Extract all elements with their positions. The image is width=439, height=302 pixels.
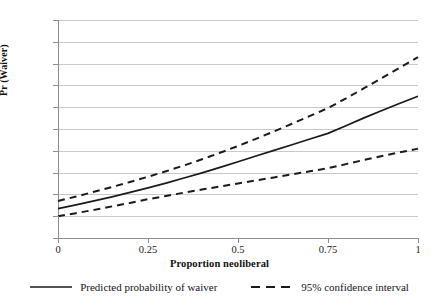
legend-item-confidence: 95% confidence interval	[251, 281, 409, 293]
y-tick-mark	[53, 20, 59, 21]
x-tick-mark	[238, 238, 239, 243]
chart-figure: Pr (Waiver) Proportion neoliberal Predic…	[0, 0, 439, 302]
x-tick-label: 1	[415, 245, 420, 256]
legend-line-solid-icon	[30, 282, 72, 292]
plot-area	[58, 20, 418, 238]
x-tick-mark	[58, 238, 59, 243]
y-tick-mark	[53, 216, 59, 217]
y-axis-title: Pr (Waiver)	[0, 44, 9, 96]
y-tick-mark	[53, 42, 59, 43]
x-tick-mark	[328, 238, 329, 243]
y-tick-mark	[53, 194, 59, 195]
x-tick-label: 0.5	[231, 245, 244, 256]
legend-line-dashed-icon	[251, 282, 293, 292]
x-tick-label: 0	[55, 245, 60, 256]
gridline-y	[58, 85, 418, 86]
gridline-y	[58, 173, 418, 174]
gridline-y	[58, 216, 418, 217]
x-tick-label: 0.25	[139, 245, 157, 256]
gridline-y	[58, 107, 418, 108]
gridline-y	[58, 129, 418, 130]
y-tick-mark	[53, 64, 59, 65]
y-tick-mark	[53, 85, 59, 86]
x-tick-label: 0.75	[319, 245, 337, 256]
legend-label-confidence: 95% confidence interval	[301, 281, 409, 293]
x-tick-mark	[148, 238, 149, 243]
y-tick-mark	[53, 107, 59, 108]
chart-legend: Predicted probability of waiver 95% conf…	[0, 281, 439, 293]
gridline-y	[58, 194, 418, 195]
gridline-y	[58, 64, 418, 65]
y-tick-mark	[53, 151, 59, 152]
y-tick-mark	[53, 129, 59, 130]
gridline-y	[58, 20, 418, 21]
legend-label-predicted: Predicted probability of waiver	[80, 281, 217, 293]
y-tick-mark	[53, 173, 59, 174]
gridline-y	[58, 42, 418, 43]
x-tick-mark	[418, 238, 419, 243]
x-axis-title: Proportion neoliberal	[0, 258, 439, 269]
gridline-y	[58, 151, 418, 152]
legend-item-predicted: Predicted probability of waiver	[30, 281, 217, 293]
